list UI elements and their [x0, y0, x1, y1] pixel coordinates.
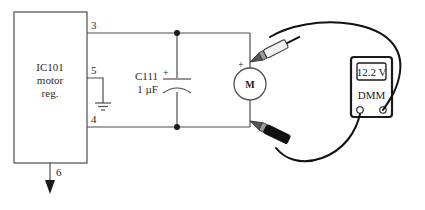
ic101-line3-label: reg. [42, 87, 59, 99]
capacitor-ref-label: C111 [135, 70, 158, 82]
capacitor-polarity-label: + [163, 67, 169, 78]
pin-label-6: 6 [56, 166, 62, 178]
label-layer: IC101 motor reg. 3 5 4 6 C111 1 µF + M +… [0, 0, 425, 210]
capacitor-value-label: 1 µF [137, 83, 158, 95]
ic101-line2-label: motor [37, 74, 64, 86]
motor-polarity-label: + [238, 59, 244, 70]
pin-label-4: 4 [91, 113, 97, 125]
dmm-name-label: DMM [358, 89, 386, 101]
motor-symbol-label: M [245, 79, 255, 90]
circuit-diagram: IC101 motor reg. 3 5 4 6 C111 1 µF + M +… [0, 0, 425, 210]
pin-label-3: 3 [91, 19, 97, 31]
ic101-ref-label: IC101 [36, 61, 64, 73]
dmm-reading-value: 12.2 V [357, 66, 387, 78]
pin-label-5: 5 [91, 64, 97, 76]
